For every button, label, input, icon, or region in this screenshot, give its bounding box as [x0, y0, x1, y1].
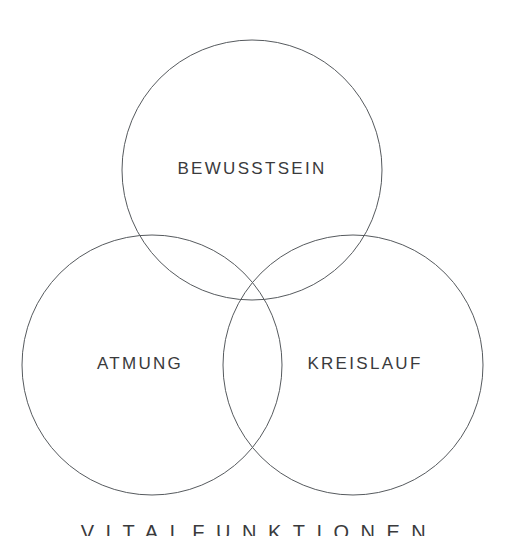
footer-caption-text: VITALFUNKTIONEN [0, 522, 507, 536]
footer-caption: VITALFUNKTIONEN [0, 522, 507, 536]
venn-diagram-svg: BEWUSSTSEIN ATMUNG KREISLAUF [0, 0, 507, 536]
venn-label-atmung: ATMUNG [97, 354, 183, 373]
venn-label-bewusstsein: BEWUSSTSEIN [177, 159, 326, 178]
venn-label-kreislauf: KREISLAUF [307, 354, 422, 373]
venn-diagram-canvas: BEWUSSTSEIN ATMUNG KREISLAUF VITALFUNKTI… [0, 0, 507, 536]
